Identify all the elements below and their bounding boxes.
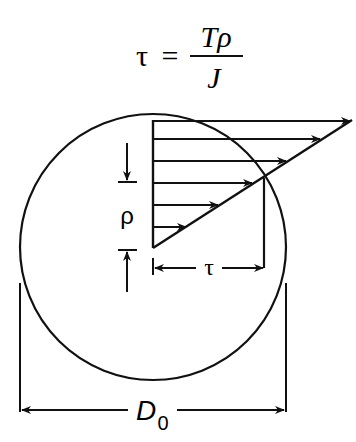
shear-stress-arrows [153, 121, 350, 227]
rho-label: ρ [120, 202, 134, 229]
formula-lhs: τ [136, 39, 148, 72]
tau-label: τ [204, 254, 214, 280]
diameter-subscript: 0 [157, 412, 168, 434]
formula: τ = Tρ J [136, 20, 243, 94]
diameter-dimension [20, 283, 286, 412]
diameter-label: D [136, 395, 156, 426]
formula-numerator: Tρ [200, 20, 231, 53]
formula-denominator: J [207, 61, 222, 94]
torsion-shear-diagram: τ = Tρ J ρ τ D 0 [0, 0, 356, 442]
formula-equals: = [162, 39, 179, 72]
